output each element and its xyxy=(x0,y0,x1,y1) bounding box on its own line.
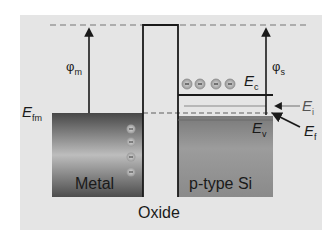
phi-m-label: φm xyxy=(66,60,82,73)
oxide-label: Oxide xyxy=(138,205,180,221)
semiconductor-electrons xyxy=(182,79,235,89)
metal-label: Metal xyxy=(75,176,114,192)
e-c-label: Ec xyxy=(244,73,259,88)
e-v-label: Ev xyxy=(252,120,267,135)
ef-pointer-arrow xyxy=(276,115,300,127)
semiconductor-label: p-type Si xyxy=(189,176,252,192)
e-fm-label: Efm xyxy=(22,104,42,119)
e-i-label: Ei xyxy=(302,98,314,113)
phi-s-label: φs xyxy=(272,60,285,73)
oxide-barrier xyxy=(143,25,178,197)
e-f-label: Ef xyxy=(304,123,317,138)
